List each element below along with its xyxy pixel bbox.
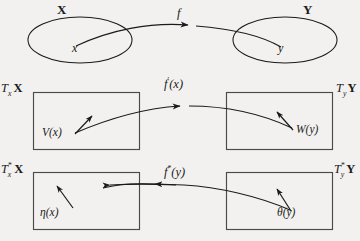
tangent-box-y	[227, 93, 333, 150]
pullback-map-label: f*(y)	[164, 165, 185, 179]
set-label-y: Y	[303, 3, 312, 16]
cotangent-space-label-x: T*xX	[1, 162, 23, 178]
set-ellipse-x	[28, 17, 132, 63]
tangent-T-y: T	[336, 81, 343, 95]
covector-eta	[57, 186, 73, 208]
covector-label-theta: θ(y)	[277, 207, 295, 219]
tangent-vector-v	[75, 116, 92, 134]
covector-label-eta: η(x)	[40, 207, 58, 219]
tangent-set-y: Y	[347, 81, 356, 95]
derivative-map-label: f′(x)	[164, 77, 183, 91]
tangent-sub-y: y	[343, 89, 346, 98]
cotangent-sub-x: x	[8, 170, 11, 179]
tangent-T-x: T	[1, 81, 8, 95]
cotangent-sup-y: *	[341, 161, 345, 170]
cotangent-box-x	[34, 173, 140, 230]
cotangent-box-y	[227, 173, 333, 230]
tangent-set-x: X	[13, 81, 22, 95]
tangent-space-label-y: TyY	[336, 82, 356, 97]
cotangent-sub-y: y	[341, 170, 344, 179]
tangent-space-label-x: TxX	[1, 82, 22, 97]
cotangent-set-x: X	[14, 162, 23, 176]
derivative-curve-tail	[189, 106, 292, 128]
cotangent-set-y: Y	[346, 162, 355, 176]
cotangent-sup-x: *	[8, 161, 12, 170]
cotangent-space-label-y: T*yY	[334, 162, 355, 178]
diagram-canvas: X Y x y f TxX TyY f′(x) V(x) W(y) T*xX T…	[0, 0, 360, 241]
tangent-vector-label-v: V(x)	[42, 127, 62, 139]
pullback-curve	[184, 185, 290, 210]
cotangent-T-y: T	[334, 162, 341, 176]
set-label-x: X	[57, 3, 66, 16]
cotangent-T-x: T	[1, 162, 8, 176]
point-label-x: x	[72, 42, 77, 54]
point-label-y: y	[278, 42, 283, 54]
tangent-vector-w	[277, 112, 293, 130]
pullback-arg: (y)	[171, 165, 185, 179]
tangent-sub-x: x	[8, 89, 11, 98]
tangent-vector-label-w: W(y)	[296, 124, 318, 136]
derivative-curve	[75, 106, 180, 133]
diagram-vector-layer	[0, 0, 360, 241]
map-label-f: f	[177, 7, 180, 20]
set-ellipse-y	[233, 17, 337, 63]
derivative-arg: (x)	[169, 77, 183, 91]
